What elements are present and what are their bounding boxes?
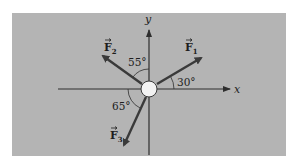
force-diagram: x y F1 F2 F3 30° 55° 65°	[0, 0, 297, 164]
y-axis-label: y	[144, 13, 152, 26]
x-axis-label: x	[234, 83, 241, 96]
angle-label-30: 30°	[177, 76, 196, 88]
particle	[141, 81, 157, 97]
angle-label-55: 55°	[128, 56, 147, 68]
angle-label-65: 65°	[112, 100, 131, 112]
